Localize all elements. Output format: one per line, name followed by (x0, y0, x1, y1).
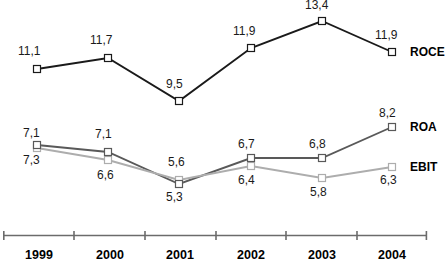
chart-container: 11,1 11,7 9,5 11,9 13,4 11,9 7,1 7,1 5,3… (0, 0, 445, 271)
data-label-ebit-2000: 6,6 (97, 168, 114, 182)
data-label-ebit-2003: 5,8 (310, 185, 327, 199)
data-label-roa-2004: 8,2 (379, 106, 396, 120)
data-label-roce-2000: 11,7 (90, 33, 112, 47)
data-label-ebit-2001: 5,6 (168, 155, 185, 169)
data-label-roce-1999: 11,1 (18, 44, 40, 58)
data-label-roa-2002: 6,7 (238, 137, 255, 151)
x-tick-label-2000: 2000 (80, 248, 140, 262)
data-label-ebit-2004: 6,3 (380, 173, 397, 187)
x-tick-label-2003: 2003 (292, 248, 352, 262)
data-label-ebit-1999: 7,3 (23, 153, 40, 167)
x-tick-label-1999: 1999 (9, 248, 69, 262)
data-label-ebit-2002: 6,4 (238, 173, 255, 187)
data-label-roa-2003: 6,8 (309, 137, 326, 151)
data-label-roa-2001: 5,3 (166, 190, 183, 204)
x-tick-label-2002: 2002 (221, 248, 281, 262)
series-line-ebit (37, 148, 392, 180)
legend-label-roce: ROCE (410, 45, 445, 59)
data-label-roce-2001: 9,5 (166, 77, 183, 91)
x-tick-label-2004: 2004 (362, 248, 422, 262)
legend-label-ebit: EBIT (410, 160, 437, 174)
x-tick-label-2001: 2001 (150, 248, 210, 262)
data-label-roce-2004: 11,9 (375, 28, 397, 42)
data-label-roa-1999: 7,1 (23, 126, 40, 140)
data-label-roce-2003: 13,4 (305, 0, 328, 12)
legend-label-roa: ROA (410, 120, 437, 134)
data-label-roce-2002: 11,9 (233, 24, 255, 38)
data-label-roa-2000: 7,1 (95, 127, 112, 141)
series-markers-roa (34, 124, 396, 188)
x-axis (3, 231, 427, 240)
